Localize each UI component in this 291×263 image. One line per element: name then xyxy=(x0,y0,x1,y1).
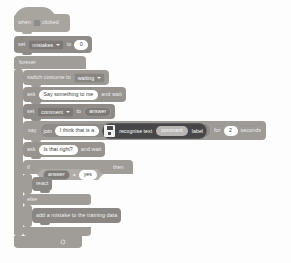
variable-dropdown-mistakes[interactable]: mistakes xyxy=(28,40,63,50)
react-label: react xyxy=(36,181,48,186)
then-label: then xyxy=(113,164,124,170)
ask-label: ask xyxy=(27,92,36,97)
switch-costume-label: switch costume to xyxy=(27,75,71,80)
if-label: if xyxy=(27,164,30,170)
recognise-text-input[interactable]: comment xyxy=(156,126,188,136)
block-react[interactable]: react xyxy=(32,177,52,191)
when-flag-clicked-content: when clicked xyxy=(18,20,59,26)
ask-question-input[interactable]: Say something to me xyxy=(39,90,99,100)
seconds-input[interactable]: 2 xyxy=(224,126,238,136)
block-ask-say-something[interactable]: ask Say something to me and wait xyxy=(23,87,126,102)
block-say-for-seconds[interactable]: say join I think that is a recognise tex… xyxy=(23,121,266,140)
forever-label: forever xyxy=(19,59,36,65)
green-flag-icon xyxy=(34,20,40,26)
chevron-down-icon xyxy=(56,44,60,46)
mistakes-value-input[interactable]: 0 xyxy=(74,40,88,50)
when-label: when xyxy=(18,20,31,25)
comparison-value-input[interactable]: yes xyxy=(79,170,97,180)
machine-learning-for-kids-icon xyxy=(104,125,115,137)
chevron-down-icon xyxy=(97,77,101,79)
ask-label: ask xyxy=(27,147,36,152)
set-label: set xyxy=(27,109,34,114)
say-duration-group: for 2 seconds xyxy=(214,126,261,136)
say-label: say xyxy=(28,128,37,133)
and-wait-label: and wait xyxy=(101,92,121,97)
add-mistake-label: add a mistake to the training data xyxy=(36,213,117,218)
script-canvas: when clicked set mistakes to 0 forever s… xyxy=(0,0,291,263)
chevron-down-icon xyxy=(66,111,70,113)
to-label: to xyxy=(77,109,82,114)
costume-dropdown[interactable]: waiting xyxy=(74,73,105,83)
forever-block-bottom xyxy=(14,236,82,248)
forever-block-left-arm xyxy=(14,69,23,236)
equals-sign: = xyxy=(73,172,76,178)
block-set-comment[interactable]: set comment to answer xyxy=(23,104,115,119)
to-label: to xyxy=(67,42,72,47)
ask-question-input[interactable]: Is that right? xyxy=(39,145,78,155)
recognise-text-output-label: label xyxy=(192,128,203,134)
join-label: join xyxy=(44,128,52,134)
costume-dropdown-value: waiting xyxy=(78,75,95,81)
clicked-label: clicked xyxy=(42,20,59,25)
else-label: else xyxy=(27,196,37,202)
loop-arrow-icon xyxy=(60,239,66,245)
block-switch-costume[interactable]: switch costume to waiting xyxy=(23,70,109,85)
block-ask-is-that-right[interactable]: ask Is that right? and wait xyxy=(23,142,105,157)
if-branch-left-arm xyxy=(23,174,32,194)
variable-dropdown-value: mistakes xyxy=(32,42,53,48)
else-branch-left-arm xyxy=(23,205,32,227)
recognise-text-label: recognise text xyxy=(119,128,152,134)
seconds-label: seconds xyxy=(241,128,261,133)
if-else-block-bottom xyxy=(23,227,91,236)
block-when-flag-clicked[interactable]: when clicked xyxy=(14,14,70,32)
variable-dropdown-value: comment xyxy=(41,109,63,115)
join-reporter[interactable]: join I think that is a recognise text co… xyxy=(40,123,212,138)
and-wait-label: and wait xyxy=(81,147,101,152)
answer-reporter[interactable]: answer xyxy=(84,107,111,117)
recognise-text-reporter[interactable]: recognise text comment label xyxy=(102,123,207,139)
variable-dropdown-comment[interactable]: comment xyxy=(37,107,73,117)
for-label: for xyxy=(214,128,220,133)
block-set-mistakes[interactable]: set mistakes to 0 xyxy=(14,36,92,53)
join-first-input[interactable]: I think that is a xyxy=(55,126,99,136)
block-add-mistake[interactable]: add a mistake to the training data xyxy=(32,208,121,223)
set-label: set xyxy=(18,42,25,47)
